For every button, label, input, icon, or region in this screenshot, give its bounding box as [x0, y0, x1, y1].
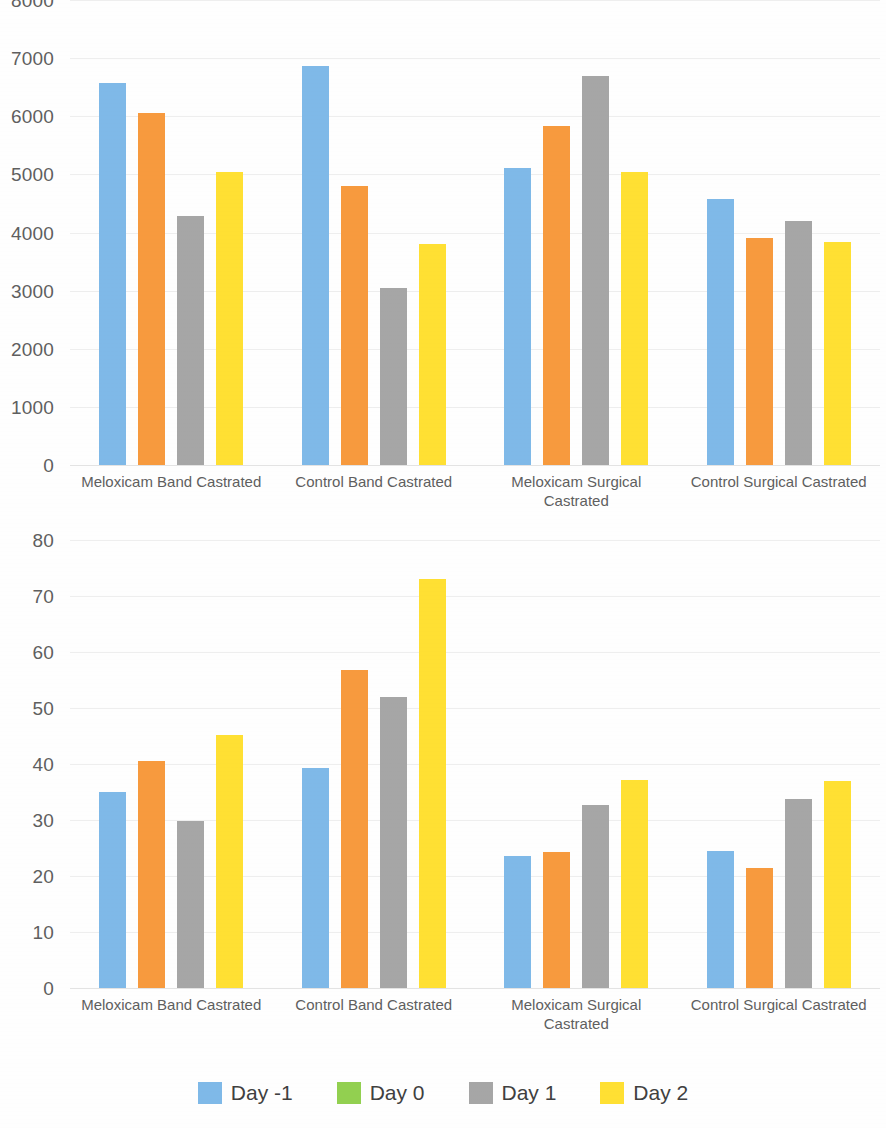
- bar: [824, 242, 851, 465]
- legend-color-swatch-icon: [600, 1082, 624, 1104]
- bar: [621, 780, 648, 988]
- bar: [138, 761, 165, 988]
- bar-group-bars: [70, 540, 273, 988]
- y-tick-label: 1000: [11, 397, 54, 416]
- bar-group: [70, 540, 273, 988]
- x-tick-label: Control Band Castrated: [273, 995, 476, 1033]
- legend-item-label: Day 0: [370, 1082, 425, 1104]
- axis-baseline: [70, 988, 880, 989]
- bar-group: [678, 540, 881, 988]
- y-tick-label: 50: [32, 699, 54, 718]
- chart-top: 800070006000500040003000200010000 Meloxi…: [0, 0, 886, 530]
- legend-color-swatch-icon: [198, 1082, 222, 1104]
- y-tick-label: 30: [32, 811, 54, 830]
- bar-group: [70, 0, 273, 465]
- legend-item[interactable]: Day 2: [600, 1082, 688, 1104]
- bar: [138, 113, 165, 465]
- bar: [302, 768, 329, 988]
- bar-group-bars: [678, 540, 881, 988]
- bar: [543, 852, 570, 988]
- bar-group-bars: [678, 0, 881, 465]
- legend-color-swatch-icon: [469, 1082, 493, 1104]
- y-tick-label: 2000: [11, 339, 54, 358]
- legend-color-swatch-icon: [337, 1082, 361, 1104]
- plot-area-bottom: 80706050403020100: [0, 540, 886, 988]
- bar: [504, 168, 531, 465]
- bar: [216, 735, 243, 988]
- y-axis-top: 800070006000500040003000200010000: [0, 0, 62, 465]
- chart-bottom: 80706050403020100 Meloxicam Band Castrat…: [0, 540, 886, 1065]
- bar-group: [678, 0, 881, 465]
- y-tick-label: 5000: [11, 165, 54, 184]
- chart-legend: Day -1Day 0Day 1Day 2: [0, 1082, 886, 1104]
- y-tick-label: 10: [32, 923, 54, 942]
- bars-container-bottom: [70, 540, 880, 988]
- bar: [177, 821, 204, 988]
- bar-group-bars: [273, 0, 476, 465]
- bar: [419, 579, 446, 988]
- bar: [824, 781, 851, 988]
- bar: [380, 288, 407, 465]
- y-tick-label: 6000: [11, 107, 54, 126]
- x-tick-label: Meloxicam Surgical Castrated: [475, 472, 678, 510]
- y-tick-label: 60: [32, 643, 54, 662]
- legend-item-label: Day 1: [502, 1082, 557, 1104]
- bar: [746, 868, 773, 988]
- x-tick-label: Control Surgical Castrated: [678, 995, 881, 1033]
- bar: [216, 172, 243, 465]
- bar-group: [475, 0, 678, 465]
- x-axis-bottom: Meloxicam Band CastratedControl Band Cas…: [70, 995, 880, 1033]
- bar-group: [475, 540, 678, 988]
- bar-group: [273, 0, 476, 465]
- bar-group-bars: [70, 0, 273, 465]
- y-tick-label: 4000: [11, 223, 54, 242]
- bar: [621, 172, 648, 465]
- bar-group: [273, 540, 476, 988]
- legend-item[interactable]: Day -1: [198, 1082, 293, 1104]
- bar-group-bars: [475, 540, 678, 988]
- y-axis-bottom: 80706050403020100: [0, 540, 62, 988]
- y-tick-label: 80: [32, 531, 54, 550]
- y-tick-label: 0: [43, 456, 54, 475]
- x-axis-top: Meloxicam Band CastratedControl Band Cas…: [70, 472, 880, 510]
- y-tick-label: 20: [32, 867, 54, 886]
- x-tick-label: Meloxicam Band Castrated: [70, 472, 273, 510]
- y-tick-label: 8000: [11, 0, 54, 10]
- y-tick-label: 40: [32, 755, 54, 774]
- legend-item[interactable]: Day 1: [469, 1082, 557, 1104]
- bar: [341, 186, 368, 465]
- bar-group-bars: [273, 540, 476, 988]
- bar: [582, 76, 609, 465]
- bar: [99, 83, 126, 465]
- bar: [707, 851, 734, 988]
- bar: [380, 697, 407, 988]
- y-tick-label: 0: [43, 979, 54, 998]
- bar: [785, 799, 812, 988]
- x-tick-label: Meloxicam Surgical Castrated: [475, 995, 678, 1033]
- legend-item[interactable]: Day 0: [337, 1082, 425, 1104]
- legend-item-label: Day -1: [231, 1082, 293, 1104]
- y-tick-label: 3000: [11, 281, 54, 300]
- bar: [582, 805, 609, 988]
- bar: [302, 66, 329, 465]
- axis-baseline: [70, 465, 880, 466]
- bars-container-top: [70, 0, 880, 465]
- y-tick-label: 7000: [11, 49, 54, 68]
- bar: [99, 792, 126, 988]
- bar: [177, 216, 204, 465]
- x-tick-label: Meloxicam Band Castrated: [70, 995, 273, 1033]
- bar: [504, 856, 531, 988]
- bar-group-bars: [475, 0, 678, 465]
- bar: [707, 199, 734, 465]
- y-tick-label: 70: [32, 587, 54, 606]
- bar: [543, 126, 570, 465]
- figure-page: 800070006000500040003000200010000 Meloxi…: [0, 0, 886, 1128]
- legend-item-label: Day 2: [633, 1082, 688, 1104]
- bar: [341, 670, 368, 988]
- x-tick-label: Control Band Castrated: [273, 472, 476, 510]
- bar: [785, 221, 812, 465]
- plot-area-top: 800070006000500040003000200010000: [0, 0, 886, 465]
- bar: [419, 244, 446, 465]
- bar: [746, 238, 773, 465]
- x-tick-label: Control Surgical Castrated: [678, 472, 881, 510]
